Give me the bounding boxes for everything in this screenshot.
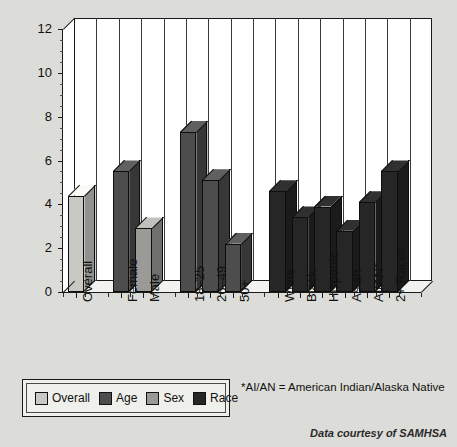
gridline-vertical [164,18,165,281]
y-tick-mark [58,248,63,249]
x-tick-mark [143,293,144,298]
bar-edge [162,217,163,281]
y-tick-label: 6 [26,154,52,167]
y-minor-tick [60,182,63,183]
y-minor-tick [60,95,63,96]
gridline-vertical [253,18,254,281]
y-tick-mark [58,29,63,30]
legend-swatch-overall [35,392,48,405]
x-axis-minor-tick [354,293,355,297]
x-axis-minor-tick [287,293,288,297]
x-tick-mark [389,293,390,298]
x-tick-label: AI/AN* [372,263,385,302]
x-axis-minor-tick [63,293,64,297]
legend-swatch-race [193,392,206,405]
x-tick-label: 26–49 [215,266,228,302]
y-tick-label: 12 [26,22,52,35]
x-tick-label: White [283,269,296,302]
y-tick-mark [58,204,63,205]
y-minor-tick [60,128,63,129]
x-tick-mark [322,293,323,298]
x-axis-minor-tick [130,293,131,297]
x-tick-mark [367,293,368,298]
x-axis-minor-tick [175,293,176,297]
y-minor-tick [60,139,63,140]
x-axis-minor-tick [242,293,243,297]
y-tick-mark [58,73,63,74]
x-tick-label: Black [305,270,318,302]
x-axis-minor-tick [220,293,221,297]
y-minor-tick [60,106,63,107]
x-tick-mark [210,293,211,298]
x-axis-minor-tick [153,293,154,297]
legend-label: Race [210,392,238,404]
y-tick-label: 0 [26,285,52,298]
bar-edge [251,233,252,281]
x-tick-mark [300,293,301,298]
y-tick-label: 8 [26,110,52,123]
legend-label: Sex [163,392,184,404]
legend-item-overall[interactable]: Overall [35,392,90,405]
y-minor-tick [60,237,63,238]
y-minor-tick [60,171,63,172]
y-minor-tick [60,281,63,282]
x-tick-mark [233,293,234,298]
x-axis-minor-tick [421,293,422,297]
credit-text: Data courtesy of SAMHSA [310,427,447,439]
gridline-vertical [96,18,97,281]
y-minor-tick [60,40,63,41]
x-axis-minor-tick [264,293,265,297]
x-tick-label: Female [126,259,139,302]
x-axis-minor-tick [197,293,198,297]
y-tick-label: 10 [26,66,52,79]
x-axis-minor-tick [399,293,400,297]
y-minor-tick [60,193,63,194]
chart-figure: Percent OverallAgeSexRace *AI/AN = Ameri… [0,0,457,447]
x-tick-mark [278,293,279,298]
legend-item-age[interactable]: Age [99,392,137,405]
legend-item-sex[interactable]: Sex [146,392,184,405]
x-tick-label: Hispanic [327,252,340,302]
y-tick-mark [58,117,63,118]
x-tick-mark [76,293,77,298]
y-minor-tick [60,84,63,85]
legend-label: Age [116,392,137,404]
x-tick-mark [121,293,122,298]
x-tick-label: Overall [81,261,94,302]
x-tick-mark [188,293,189,298]
legend-item-race[interactable]: Race [193,392,238,405]
x-axis-minor-tick [309,293,310,297]
y-minor-tick [60,150,63,151]
y-tick-label: 4 [26,197,52,210]
y-tick-mark [58,161,63,162]
x-axis-minor-tick [332,293,333,297]
x-axis-minor-tick [108,293,109,297]
x-tick-label: Male [148,274,161,302]
legend-items: OverallAgeSexRace [26,383,226,413]
y-minor-tick [60,226,63,227]
legend-swatch-sex [146,392,159,405]
y-minor-tick [60,270,63,271]
y-minor-tick [60,215,63,216]
x-tick-mark [345,293,346,298]
y-minor-tick [60,62,63,63]
x-axis-minor-tick [376,293,377,297]
gridline-vertical [410,18,411,281]
x-tick-label: 2+ Races [394,247,407,302]
y-minor-tick [60,51,63,52]
x-tick-label: Asian [350,269,363,302]
footnote-text: *AI/AN = American Indian/Alaska Native [241,381,445,393]
y-minor-tick [60,259,63,260]
x-tick-label: 50+ [238,280,251,302]
x-axis-minor-tick [85,293,86,297]
legend-swatch-age [99,392,112,405]
x-tick-label: 18–25 [193,266,206,302]
y-tick-label: 2 [26,241,52,254]
legend-label: Overall [52,392,90,404]
chart-legend: OverallAgeSexRace [22,379,230,417]
